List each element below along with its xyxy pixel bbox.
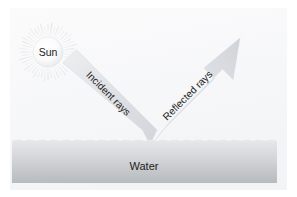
reflection-diagram-svg: Sun Incident rays Reflected rays Water <box>0 0 297 197</box>
sun-label: Sun <box>39 46 58 58</box>
diagram-figure: Sun Incident rays Reflected rays Water <box>0 0 297 197</box>
water-body: Water <box>12 140 277 183</box>
water-label: Water <box>130 160 159 172</box>
